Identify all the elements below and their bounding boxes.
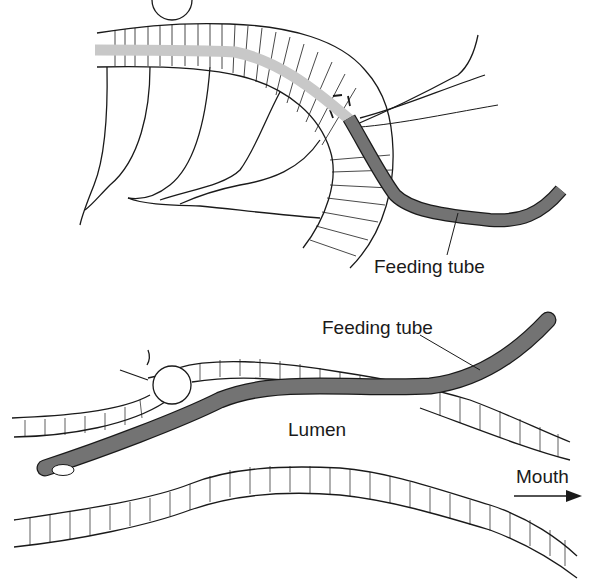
lumen-label: Lumen <box>288 419 346 441</box>
feeding-tube-label-bottom: Feeding tube <box>322 317 433 339</box>
purse-string-suture <box>153 366 191 404</box>
feeding-tube-label-top: Feeding tube <box>374 256 485 278</box>
mouth-arrow-head-icon <box>566 490 582 502</box>
tube-tip-hole <box>52 465 74 476</box>
top-panel <box>80 24 498 268</box>
leader-line-bottom <box>420 335 480 370</box>
mouth-label: Mouth <box>516 466 569 488</box>
bottom-panel <box>12 0 577 578</box>
diagram-canvas <box>0 0 609 581</box>
